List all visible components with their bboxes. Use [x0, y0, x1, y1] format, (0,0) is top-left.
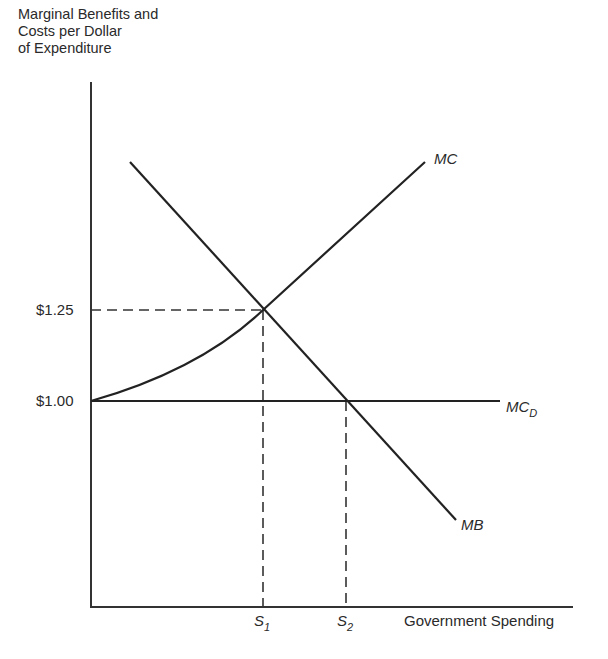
x-axis-label: Government Spending [404, 612, 554, 629]
x-tick-s1-main: S [254, 612, 264, 629]
x-tick-s2: S2 [337, 612, 353, 633]
mc-curve [91, 162, 425, 401]
mcd-label-sub: D [529, 407, 537, 419]
y-tick-100: $1.00 [36, 392, 74, 409]
x-tick-s1: S1 [254, 612, 270, 633]
mb-label: MB [461, 516, 484, 533]
mcd-label: MCD [506, 398, 537, 419]
mb-line [130, 162, 456, 520]
x-tick-s2-sub: 2 [347, 621, 353, 633]
x-tick-s1-sub: 1 [264, 621, 270, 633]
mcd-label-main: MC [506, 398, 529, 415]
chart-plot [0, 0, 608, 659]
y-tick-125: $1.25 [36, 301, 74, 318]
mc-label: MC [434, 150, 457, 167]
x-tick-s2-main: S [337, 612, 347, 629]
